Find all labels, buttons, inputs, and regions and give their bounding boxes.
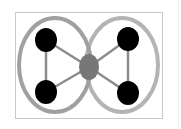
diagram-canvas	[0, 0, 181, 129]
node-bottom-left	[35, 80, 57, 104]
node-center	[79, 54, 99, 80]
node-top-left	[35, 28, 57, 52]
overlapping-sets-diagram	[0, 0, 181, 129]
node-bottom-right	[117, 81, 139, 105]
right-edge-divider	[178, 0, 179, 129]
node-top-right	[117, 27, 139, 51]
